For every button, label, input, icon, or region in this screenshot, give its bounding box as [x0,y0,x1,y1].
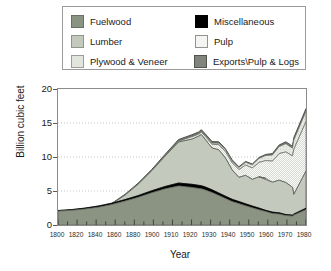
legend-swatch-exports-pulp-logs [194,55,207,68]
legend-label-exports-pulp-logs: Exports\Pulp & Logs [213,56,299,67]
legend-swatch-pulp [195,35,208,48]
figure: Fuelwood Miscellaneous Lumber Pulp Plywo… [0,0,331,271]
legend-label-pulp: Pulp [214,36,233,47]
legend-swatch-fuelwood [71,15,84,28]
x-tick-label-1980: 1980 [291,231,317,238]
y-tick-label-10: 10 [26,152,52,162]
legend-swatch-lumber [71,35,84,48]
legend-item-exports-pulp-logs[interactable]: Exports\Pulp & Logs [194,55,299,68]
legend-label-lumber: Lumber [90,36,122,47]
y-tick-label-20: 20 [26,84,52,94]
x-axis-label: Year [120,249,240,260]
legend-item-fuelwood[interactable]: Fuelwood [71,15,195,28]
area-bands [58,109,306,225]
legend-row: Lumber Pulp [71,31,299,51]
y-tick-label-0: 0 [26,220,52,230]
y-tick-label-5: 5 [26,186,52,196]
legend-label-fuelwood: Fuelwood [90,16,131,27]
legend-item-plywood-veneer[interactable]: Plywood & Veneer [71,55,194,68]
chart-legend: Fuelwood Miscellaneous Lumber Pulp Plywo… [62,6,306,70]
y-axis-label: Billion cubic feet [15,62,26,182]
legend-item-pulp[interactable]: Pulp [195,35,233,48]
legend-row: Fuelwood Miscellaneous [71,11,299,31]
legend-item-lumber[interactable]: Lumber [71,35,195,48]
stacked-area-chart [58,89,306,225]
legend-label-miscellaneous: Miscellaneous [214,16,274,27]
legend-label-plywood-veneer: Plywood & Veneer [90,56,168,67]
legend-item-miscellaneous[interactable]: Miscellaneous [195,15,274,28]
legend-swatch-miscellaneous [195,15,208,28]
legend-row: Plywood & Veneer Exports\Pulp & Logs [71,51,299,71]
y-tick-label-15: 15 [26,118,52,128]
plot-area [57,88,307,226]
legend-swatch-plywood-veneer [71,55,84,68]
